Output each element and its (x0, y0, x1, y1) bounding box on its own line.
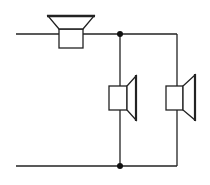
junction-bottom (117, 163, 123, 169)
speaker-parallel-1-icon (109, 75, 136, 121)
speaker-parallel-2-icon (166, 74, 195, 121)
speaker-circuit-diagram (0, 0, 210, 185)
speaker-series-icon (47, 16, 95, 48)
junction-top (117, 31, 123, 37)
